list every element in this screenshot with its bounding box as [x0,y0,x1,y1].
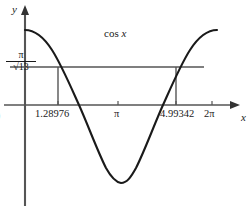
y-tick-label-pi-over-sqrt13: π √13 [6,50,36,72]
x-tick-label-first-root: 1.28976 [35,109,69,120]
y-axis-arrowhead [21,5,29,15]
curve-title-function: cos [104,27,119,39]
x-axis-label: x [241,112,246,123]
fraction-numerator: π [6,50,36,62]
y-axis-label: y [12,4,17,15]
x-axis-arrowhead [230,101,240,109]
fraction-denominator: √13 [6,62,36,73]
cosine-plot-figure: y x cos x π √13 1.28976 π 4.99342 2π ) [0,0,251,213]
curve-title: cos x [104,28,126,39]
cosine-curve [25,30,217,183]
x-tick-label-second-root: 4.99342 [160,109,194,120]
curve-title-variable: x [121,27,126,39]
x-tick-label-pi: π [114,109,119,120]
x-tick-label-2pi: 2π [204,109,215,120]
